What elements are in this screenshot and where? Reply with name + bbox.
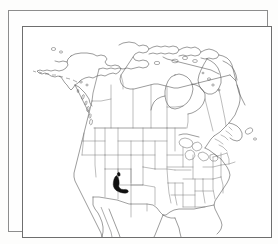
west-coast — [74, 85, 102, 237]
north-america-map — [23, 27, 271, 237]
alaska-outline — [37, 53, 121, 106]
eastern-canada-coast — [205, 85, 257, 148]
map-figure: Outline map of North America showing Can… — [0, 0, 278, 244]
canada-outline — [99, 42, 245, 105]
arctic-islands — [154, 56, 237, 94]
figure-frame-inner: Outline map of North America showing Can… — [22, 26, 272, 238]
figure-frame-outer: Outline map of North America showing Can… — [8, 10, 268, 232]
highlight-region — [113, 172, 128, 193]
hudson-bay — [151, 74, 205, 114]
canada-province-borders — [92, 75, 226, 131]
international-borders — [92, 69, 186, 218]
us-state-borders — [82, 127, 235, 207]
